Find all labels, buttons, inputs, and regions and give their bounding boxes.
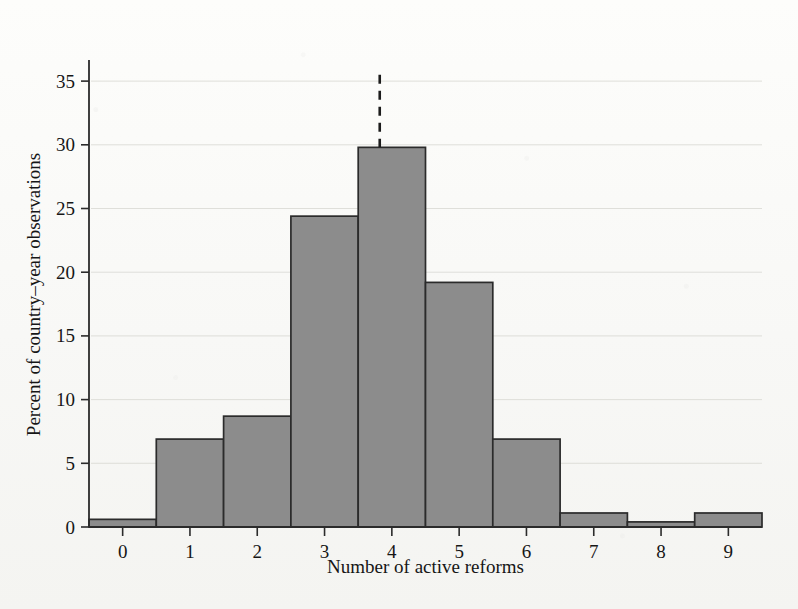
- histogram-bar: [493, 439, 560, 527]
- histogram-bar: [695, 513, 762, 527]
- y-axis-tick-label: 15: [56, 325, 75, 346]
- histogram-bar: [291, 216, 358, 527]
- y-axis-tick-label: 20: [56, 262, 75, 283]
- histogram-bar: [426, 282, 493, 527]
- y-axis-tick-label: 30: [56, 134, 75, 155]
- y-axis-tick-label: 5: [66, 453, 76, 474]
- x-axis-tick-label: 1: [185, 541, 195, 562]
- histogram-bar: [89, 519, 156, 527]
- x-axis-title: Number of active reforms: [327, 556, 524, 577]
- y-axis-tick-label: 35: [56, 71, 75, 92]
- histogram-bar: [156, 439, 223, 527]
- x-axis-tick-label: 0: [118, 541, 128, 562]
- x-axis-tick-label: 2: [253, 541, 263, 562]
- y-axis-tick-label: 0: [66, 517, 76, 538]
- x-axis-tick-label: 8: [656, 541, 666, 562]
- x-axis-tick-label: 7: [589, 541, 599, 562]
- histogram-plot: 051015202530350123456789Number of active…: [0, 0, 798, 609]
- histogram-figure: 051015202530350123456789Number of active…: [0, 0, 798, 609]
- y-axis-tick-label: 10: [56, 389, 75, 410]
- histogram-bar: [224, 416, 291, 527]
- y-axis-title: Percent of country–year observations: [23, 153, 44, 436]
- y-axis-tick-label: 25: [56, 198, 75, 219]
- histogram-bar: [560, 513, 627, 527]
- histogram-bar: [358, 147, 425, 527]
- x-axis-tick-label: 9: [724, 541, 734, 562]
